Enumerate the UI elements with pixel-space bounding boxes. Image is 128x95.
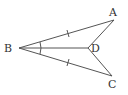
label-b: B [4,42,12,55]
diagram-svg: A B C D [0,0,128,95]
label-a: A [108,6,118,19]
geometry-diagram: A B C D [0,0,128,95]
label-c: C [108,78,116,91]
label-d: D [91,42,100,55]
